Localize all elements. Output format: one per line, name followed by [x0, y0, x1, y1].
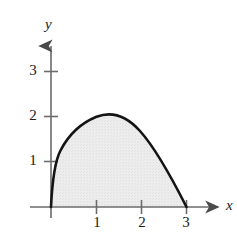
y-tick-label-2: 2 [26, 108, 40, 123]
figure-container: y x 1 2 3 1 2 3 [0, 0, 237, 244]
shaded-region [51, 114, 187, 207]
x-tick-label-3: 3 [179, 215, 193, 230]
y-tick-label-1: 1 [26, 153, 40, 168]
x-tick-label-1: 1 [90, 215, 104, 230]
x-tick-label-2: 2 [135, 215, 149, 230]
x-axis-label: x [226, 198, 233, 213]
y-axis-label: y [45, 17, 52, 32]
y-tick-label-3: 3 [26, 63, 40, 78]
